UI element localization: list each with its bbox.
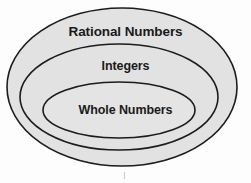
label-whole-numbers: Whole Numbers xyxy=(0,103,251,117)
label-integers: Integers xyxy=(0,59,251,73)
bottom-tick-mark xyxy=(124,172,125,179)
label-rational-numbers: Rational Numbers xyxy=(0,24,251,39)
number-sets-venn-diagram: Rational Numbers Integers Whole Numbers xyxy=(0,0,251,183)
